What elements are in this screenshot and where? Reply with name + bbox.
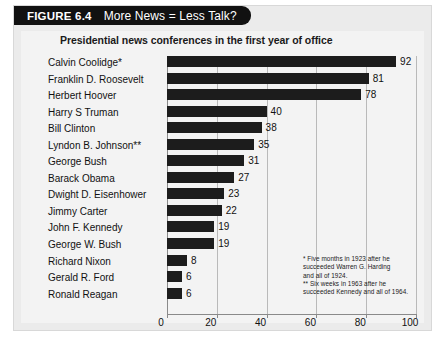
tick-label-0: 0 — [158, 317, 164, 328]
bar-value: 38 — [266, 122, 277, 133]
bar-value: 40 — [271, 106, 282, 117]
tick-label-80: 80 — [355, 317, 366, 328]
bar-value: 92 — [400, 56, 411, 67]
tick-label-40: 40 — [255, 317, 266, 328]
bar — [167, 188, 224, 199]
bar-label: John F. Kennedy — [48, 222, 164, 233]
figure-page: FIGURE 6.4 More News = Less Talk? Presid… — [0, 0, 447, 359]
figure-title-bar: FIGURE 6.4 More News = Less Talk? — [14, 6, 251, 25]
tick-0 — [167, 314, 168, 318]
bar-label: Bill Clinton — [48, 123, 164, 134]
figure-title: More News = Less Talk? — [104, 9, 237, 23]
tick-label-100: 100 — [402, 317, 419, 328]
bar — [167, 139, 254, 150]
bar — [167, 238, 214, 249]
bar — [167, 106, 267, 117]
bar — [167, 122, 262, 133]
bar-label: Calvin Coolidge* — [48, 57, 164, 68]
bar-value: 8 — [191, 255, 197, 266]
tick-label-60: 60 — [305, 317, 316, 328]
bar-chart: Calvin Coolidge*92Franklin D. Roosevelt8… — [0, 0, 447, 359]
bar-value: 27 — [238, 172, 249, 183]
bar-label: Jimmy Carter — [48, 206, 164, 217]
bar-value: 22 — [226, 205, 237, 216]
bar-label: George W. Bush — [48, 239, 164, 250]
bar — [167, 172, 234, 183]
bar-label: Franklin D. Roosevelt — [48, 74, 164, 85]
bar — [167, 73, 369, 84]
bar-value: 19 — [218, 221, 229, 232]
bar-value: 81 — [373, 73, 384, 84]
footnote-line-2: succeeded Warren G. Harding — [303, 263, 421, 271]
bar — [167, 89, 361, 100]
bar-label: Harry S Truman — [48, 107, 164, 118]
x-axis-line — [167, 314, 416, 315]
bar-value: 6 — [186, 288, 192, 299]
bar-label: Barack Obama — [48, 173, 164, 184]
bar-value: 6 — [186, 271, 192, 282]
footnote-line-5: succeeded Kennedy and all of 1964. — [303, 288, 421, 296]
tick-60 — [316, 314, 317, 318]
bar-value: 19 — [218, 238, 229, 249]
bar-label: Richard Nixon — [48, 256, 164, 267]
bar-value: 35 — [258, 139, 269, 150]
bar-value: 31 — [248, 155, 259, 166]
bar — [167, 155, 244, 166]
bar — [167, 56, 396, 67]
chart-footnotes: * Five months in 1923 after he succeeded… — [303, 255, 421, 296]
bar-label: Herbert Hoover — [48, 90, 164, 101]
tick-label-20: 20 — [205, 317, 216, 328]
bar-label: George Bush — [48, 156, 164, 167]
bar-label: Dwight D. Eisenhower — [48, 189, 164, 200]
footnote-line-1: * Five months in 1923 after he — [303, 255, 421, 263]
bar-label: Ronald Reagan — [48, 289, 164, 300]
tick-20 — [217, 314, 218, 318]
bar-value: 23 — [228, 188, 239, 199]
bar-value: 78 — [365, 89, 376, 100]
figure-number: FIGURE 6.4 — [27, 10, 92, 22]
tick-40 — [267, 314, 268, 318]
bar — [167, 271, 182, 282]
tick-80 — [366, 314, 367, 318]
footnote-line-4: ** Six weeks in 1963 after he — [303, 280, 421, 288]
bar — [167, 221, 214, 232]
bar — [167, 288, 182, 299]
bar — [167, 255, 187, 266]
bar-label: Lyndon B. Johnson** — [48, 140, 164, 151]
footnote-line-3: and all of 1924. — [303, 272, 421, 280]
bar — [167, 205, 222, 216]
bar-label: Gerald R. Ford — [48, 272, 164, 283]
